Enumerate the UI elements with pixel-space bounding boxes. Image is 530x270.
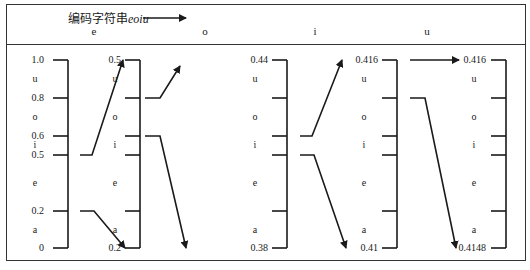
scale3-axis: [272, 60, 287, 248]
scale4-axis: [382, 60, 397, 248]
arrow-e-lower-icon: [80, 211, 125, 248]
scale1-axis: [53, 60, 68, 248]
arrow-u-lower-icon: [410, 98, 456, 248]
arrow-e-upper-icon: [80, 60, 123, 155]
arrow-o-upper-icon: [145, 66, 180, 98]
arrow-i-upper-icon: [300, 60, 342, 136]
arrow-i-lower-icon: [300, 155, 346, 248]
scale5-axis: [491, 60, 506, 248]
scale2-axis: [125, 60, 140, 248]
diagram-lines: [0, 0, 530, 270]
arrow-o-lower-icon: [145, 136, 186, 248]
